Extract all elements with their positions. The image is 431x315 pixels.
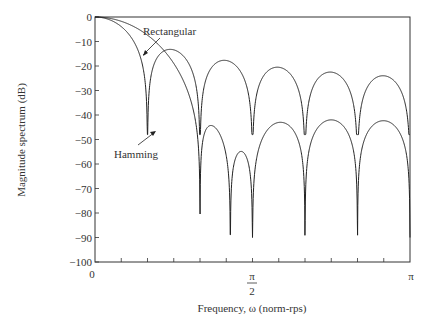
y-tick-label: −10 <box>75 36 93 48</box>
x-tick-pi-over-2-num: π <box>249 270 255 282</box>
y-tick-label: −40 <box>75 109 93 121</box>
y-axis-label: Magnitude spectrum (dB) <box>15 83 28 197</box>
y-tick-label: −30 <box>75 85 93 97</box>
y-tick-label: −60 <box>75 158 93 170</box>
hamming-label: Hamming <box>114 148 158 160</box>
x-tick-0: 0 <box>89 268 95 280</box>
x-axis-label: Frequency, ω (norm-rps) <box>198 302 307 315</box>
hamming-window-curve <box>95 17 410 238</box>
y-tick-label: −80 <box>75 207 93 219</box>
y-tick-label: −50 <box>75 134 93 146</box>
y-tick-label: −100 <box>69 256 92 268</box>
y-tick-label: −90 <box>75 232 93 244</box>
y-tick-label: −70 <box>75 183 93 195</box>
rectangular-label: Rectangular <box>143 25 196 37</box>
y-tick-label: −20 <box>75 60 93 72</box>
x-tick-pi-over-2-den: 2 <box>249 285 255 297</box>
x-axis-ticks <box>121 258 384 262</box>
y-tick-label: 0 <box>87 11 93 23</box>
x-tick-pi: π <box>408 270 414 282</box>
magnitude-spectrum-chart: 0−10−20−30−40−50−60−70−80−90−100 Rectang… <box>0 0 431 315</box>
